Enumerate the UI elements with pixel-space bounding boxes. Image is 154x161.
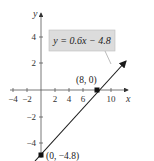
x-tick-label: 4 bbox=[67, 94, 72, 104]
line-chart: −4 −2 2 4 6 10 4 2 −2 −4 x y y = 0.6x − … bbox=[0, 0, 154, 161]
y-tick-label: 4 bbox=[32, 32, 37, 42]
y-tick-label: 2 bbox=[32, 58, 37, 68]
point-x-intercept bbox=[95, 88, 100, 93]
x-tick-label: 10 bbox=[107, 94, 117, 104]
y-axis-label: y bbox=[32, 8, 38, 19]
equation-label: y = 0.6x − 4.8 bbox=[52, 35, 110, 46]
point-y-intercept bbox=[39, 153, 44, 158]
point-label: (0, −4.8) bbox=[46, 151, 79, 161]
x-tick-label: 2 bbox=[53, 94, 58, 104]
x-axis-label: x bbox=[125, 93, 131, 104]
point-label: (8, 0) bbox=[76, 75, 97, 86]
x-tick-label: −2 bbox=[22, 94, 32, 104]
y-tick-label: −4 bbox=[26, 138, 36, 148]
callout-pointer bbox=[105, 51, 111, 64]
x-tick-label: 6 bbox=[81, 94, 86, 104]
x-tick-label: −4 bbox=[8, 94, 18, 104]
y-tick-label: −2 bbox=[26, 112, 36, 122]
